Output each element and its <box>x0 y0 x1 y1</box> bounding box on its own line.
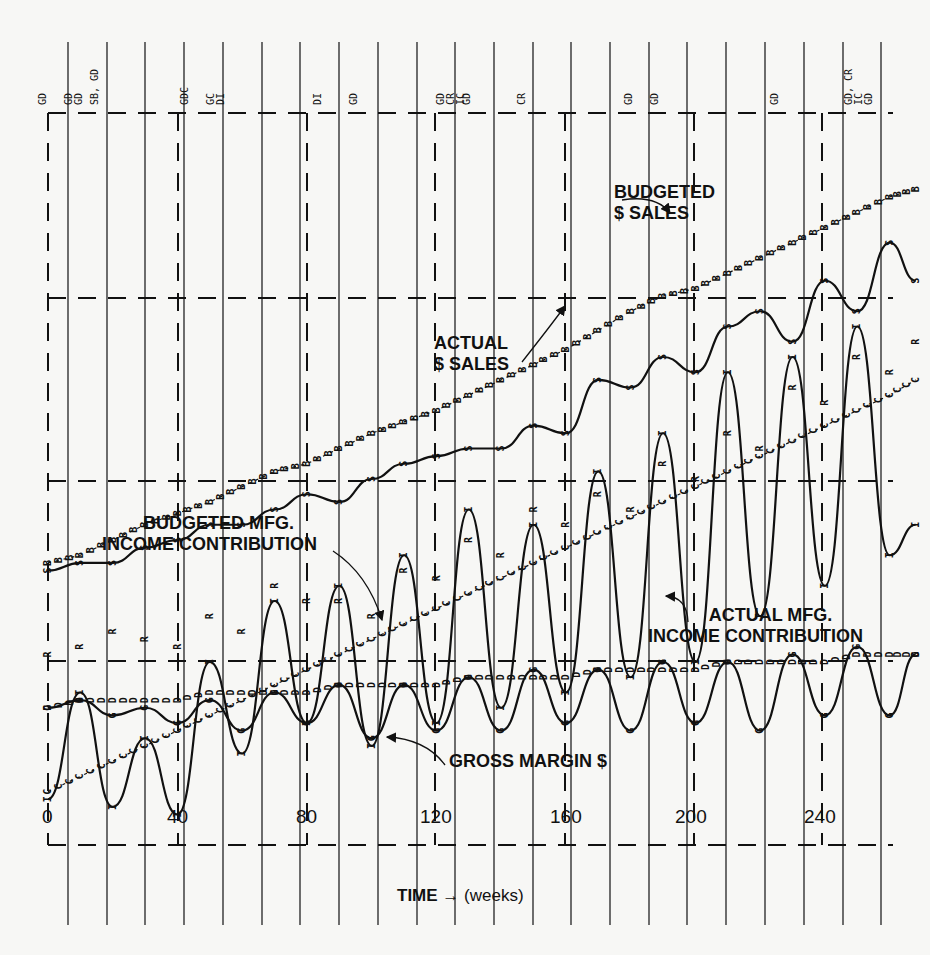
svg-text:B: B <box>700 280 711 286</box>
svg-text:G: G <box>172 720 183 726</box>
svg-text:C: C <box>549 550 560 556</box>
svg-text:C: C <box>776 443 787 449</box>
svg-text:D: D <box>355 682 366 688</box>
svg-text:C: C <box>431 606 442 612</box>
svg-text:D: D <box>139 697 150 703</box>
svg-text:G: G <box>657 659 668 665</box>
svg-text:C: C <box>560 545 571 551</box>
svg-text:B: B <box>236 484 247 490</box>
svg-text:B: B <box>668 290 679 296</box>
svg-text:D: D <box>150 697 161 703</box>
x-axis-unit: (weeks) <box>464 886 524 905</box>
svg-text:R: R <box>139 635 150 642</box>
svg-text:R: R <box>301 597 312 604</box>
svg-text:D: D <box>398 682 409 688</box>
event-tag: GD <box>462 93 472 105</box>
event-tag: GD <box>74 93 84 105</box>
x-axis-title-main: TIME <box>397 886 438 905</box>
svg-text:B: B <box>808 229 819 235</box>
svg-text:C: C <box>625 514 636 520</box>
svg-text:C: C <box>398 621 409 627</box>
svg-text:C: C <box>172 728 183 734</box>
svg-text:C: C <box>301 667 312 673</box>
svg-text:D: D <box>851 651 862 657</box>
svg-text:C: C <box>74 773 85 779</box>
svg-text:B: B <box>474 387 485 393</box>
svg-text:D: D <box>679 667 690 673</box>
annotation-line: ACTUAL <box>434 333 509 354</box>
svg-text:D: D <box>193 692 204 698</box>
svg-text:S: S <box>398 461 409 467</box>
svg-text:B: B <box>420 411 431 417</box>
annotation-line: $ SALES <box>614 203 715 224</box>
svg-text:B: B <box>787 240 798 246</box>
svg-text:B: B <box>797 235 808 241</box>
event-tag: DI <box>313 93 323 105</box>
svg-text:I: I <box>819 583 830 589</box>
svg-text:I: I <box>560 689 571 695</box>
svg-text:B: B <box>344 440 355 446</box>
svg-text:B: B <box>182 506 193 512</box>
svg-text:I: I <box>625 674 636 680</box>
svg-text:D: D <box>215 689 226 695</box>
svg-text:R: R <box>722 429 733 436</box>
svg-text:D: D <box>841 654 852 660</box>
svg-text:D: D <box>549 674 560 680</box>
svg-text:B: B <box>204 499 215 505</box>
svg-text:I: I <box>787 354 798 360</box>
svg-text:R: R <box>269 582 280 589</box>
svg-text:C: C <box>42 789 53 795</box>
svg-text:B: B <box>301 461 312 467</box>
annotation-line: BUDGETED <box>614 182 715 203</box>
x-tick: 0 <box>42 806 53 828</box>
svg-text:B: B <box>74 552 85 558</box>
svg-text:C: C <box>355 641 366 647</box>
svg-text:B: B <box>258 473 269 479</box>
svg-text:B: B <box>398 419 409 425</box>
svg-text:D: D <box>431 682 442 688</box>
svg-text:R: R <box>398 567 409 574</box>
svg-text:C: C <box>743 458 754 464</box>
svg-text:D: D <box>711 662 722 668</box>
svg-text:R: R <box>236 628 247 635</box>
svg-text:D: D <box>582 669 593 675</box>
svg-text:B: B <box>528 362 539 368</box>
svg-text:B: B <box>355 435 366 441</box>
svg-text:I: I <box>851 323 862 329</box>
svg-text:C: C <box>107 758 118 764</box>
svg-text:B: B <box>733 265 744 271</box>
svg-text:I: I <box>204 659 215 665</box>
svg-text:I: I <box>722 369 733 375</box>
svg-text:B: B <box>333 445 344 451</box>
svg-text:I: I <box>431 720 442 726</box>
svg-text:D: D <box>797 659 808 665</box>
svg-text:C: C <box>592 529 603 535</box>
svg-text:S: S <box>333 499 344 505</box>
svg-text:S: S <box>754 308 765 314</box>
svg-text:D: D <box>528 674 539 680</box>
svg-text:S: S <box>107 560 118 566</box>
svg-text:D: D <box>323 684 334 690</box>
svg-text:D: D <box>420 682 431 688</box>
svg-text:R: R <box>754 445 765 452</box>
svg-text:C: C <box>754 453 765 459</box>
svg-text:B: B <box>409 415 420 421</box>
svg-text:G: G <box>625 728 636 734</box>
svg-text:B: B <box>452 397 463 403</box>
svg-text:I: I <box>463 506 474 512</box>
svg-text:D: D <box>366 682 377 688</box>
series-c: CCCCCCCCCCCCCCCCCCCCCCCCCCCCCCCCCCCCCCCC… <box>42 377 921 795</box>
svg-text:G: G <box>819 712 830 718</box>
svg-text:B: B <box>225 489 236 495</box>
svg-text:C: C <box>139 743 150 749</box>
svg-text:D: D <box>42 705 53 711</box>
svg-text:G: G <box>139 705 150 711</box>
svg-text:C: C <box>690 484 701 490</box>
svg-text:G: G <box>787 651 798 657</box>
svg-text:C: C <box>841 412 852 418</box>
svg-text:C: C <box>614 519 625 525</box>
svg-text:C: C <box>582 534 593 540</box>
svg-text:B: B <box>269 468 280 474</box>
svg-text:S: S <box>366 476 377 482</box>
annotation-budgeted-income: BUDGETED MFG. INCOME CONTRIBUTION <box>102 513 317 555</box>
